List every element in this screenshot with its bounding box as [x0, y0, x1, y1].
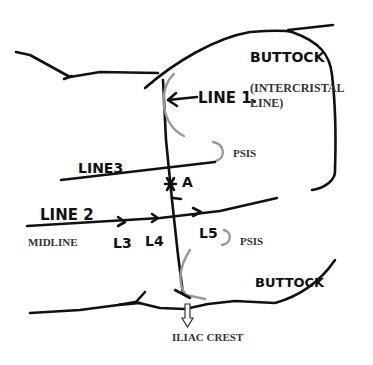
arrow-mark-3	[193, 208, 201, 216]
psis-upper-label: PSIS	[233, 147, 256, 159]
iliac-crest-label: ILIAC CREST	[172, 331, 244, 343]
line1-desc-1: (INTERCRISTAL	[250, 81, 344, 95]
back-contour-upper-left	[16, 52, 158, 77]
psis-lower-bracket	[222, 230, 230, 245]
upper-buttock-dash	[288, 25, 333, 30]
l5-label: L5	[199, 225, 218, 241]
iliac-arc-lower	[180, 250, 205, 299]
point-a-label: A	[182, 174, 193, 190]
l3-label: L3	[113, 235, 132, 251]
line2-label: LINE 2	[40, 206, 94, 224]
line1-arrow	[168, 93, 197, 106]
buttock-top-label: BUTTOCK	[250, 49, 326, 65]
back-contour-tick	[64, 76, 72, 79]
lumbar-landmark-diagram: BUTTOCK LINE 1. (INTERCRISTAL LINE) LINE…	[0, 0, 373, 365]
buttock-bottom-label: BUTTOCK	[255, 275, 325, 290]
psis-upper-bracket	[213, 142, 223, 161]
level-tick	[173, 198, 181, 199]
psis-lower-label: PSIS	[240, 235, 263, 247]
l4-label: L4	[145, 233, 164, 249]
line1-label: LINE 1.	[198, 89, 257, 107]
line1-desc-2: LINE)	[250, 96, 283, 110]
midline-label: MIDLINE	[28, 236, 78, 248]
line3-label: LINE3	[78, 160, 123, 176]
